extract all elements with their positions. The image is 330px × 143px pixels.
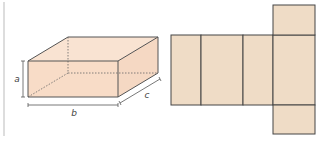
label-a: a <box>14 74 20 84</box>
net-face-top <box>273 5 315 35</box>
net-face-2 <box>201 35 243 105</box>
box-drawing: a b c <box>14 37 161 118</box>
label-c: c <box>145 90 150 100</box>
figure-canvas: a b c <box>0 0 330 143</box>
net-face-3 <box>243 35 273 105</box>
net-face-1 <box>171 35 201 105</box>
net-face-4 <box>273 35 315 105</box>
label-b: b <box>71 108 77 118</box>
net-face-bottom <box>273 105 315 134</box>
net-drawing <box>171 5 315 134</box>
